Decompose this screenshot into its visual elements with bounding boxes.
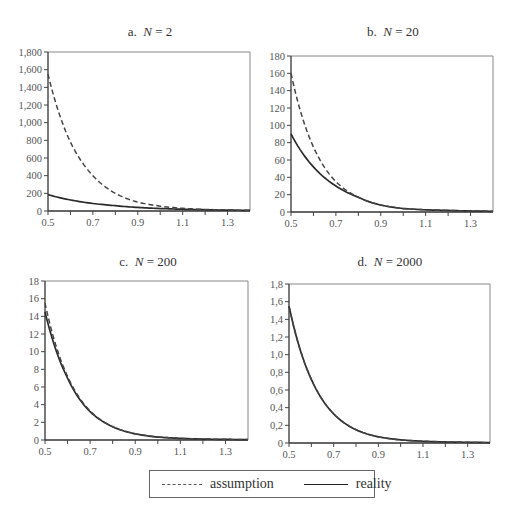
y-tick-label: 0 [37, 206, 42, 217]
x-tick-label: 1.1 [416, 449, 429, 460]
y-tick-label: 2 [34, 417, 39, 428]
y-tick-label: 0 [278, 438, 283, 449]
panel-title: d. N = 2000 [358, 254, 423, 269]
panel-title-value: = 200 [143, 254, 176, 269]
x-tick-label: 0.9 [374, 218, 387, 229]
x-tick-label: 0.5 [284, 218, 297, 229]
y-tick-label: 200 [26, 188, 42, 199]
panel-title-prefix: c. [119, 254, 135, 269]
y-tick-label: 180 [269, 51, 285, 62]
series-line-assumption [48, 74, 250, 210]
y-tick-label: 18 [29, 276, 40, 287]
y-tick-label: 600 [26, 153, 42, 164]
y-tick-label: 12 [29, 329, 40, 340]
legend: assumption reality [149, 470, 375, 498]
y-tick-label: 4 [34, 399, 40, 410]
y-tick-label: 8 [34, 364, 39, 375]
x-tick-label: 0.9 [372, 449, 385, 460]
panel-title: a. N = 2 [128, 24, 173, 39]
y-tick-label: 1,2 [270, 332, 283, 343]
x-tick-label: 0.5 [38, 446, 51, 457]
panel-title-prefix: a. [128, 24, 144, 39]
series-line-reality [289, 306, 490, 442]
y-tick-label: 60 [275, 155, 286, 166]
y-tick-label: 1,0 [270, 349, 283, 360]
panel-a: a. N = 202004006008001,0001,2001,4001,60… [18, 24, 250, 228]
y-tick-label: 80 [275, 137, 286, 148]
legend-label-assumption: assumption [210, 476, 274, 492]
y-tick-label: 10 [29, 346, 40, 357]
legend-label-reality: reality [356, 476, 392, 492]
legend-item-assumption: assumption [150, 476, 274, 492]
y-tick-label: 1,8 [270, 279, 283, 290]
y-tick-label: 0 [34, 435, 39, 446]
series-line-assumption [45, 303, 248, 439]
y-tick-label: 1,000 [18, 117, 42, 128]
x-tick-label: 1.1 [176, 217, 189, 228]
x-tick-label: 1.1 [419, 218, 432, 229]
series-line-reality [48, 195, 250, 211]
panel-c: c. N = 2000246810121416180.50.70.91.11.3 [29, 254, 249, 457]
y-tick-label: 40 [275, 172, 286, 183]
x-tick-label: 0.5 [282, 449, 295, 460]
x-tick-label: 0.9 [129, 446, 142, 457]
x-tick-label: 1.3 [219, 446, 232, 457]
y-tick-label: 140 [269, 85, 285, 96]
x-tick-label: 0.5 [41, 217, 54, 228]
panel-title-value: = 20 [392, 24, 419, 39]
y-tick-label: 0 [280, 207, 285, 218]
y-tick-label: 0,6 [270, 385, 283, 396]
legend-swatch-dashed [162, 484, 202, 485]
x-tick-label: 1.3 [464, 218, 477, 229]
y-tick-label: 120 [269, 103, 285, 114]
panel-title: c. N = 200 [119, 254, 177, 269]
y-tick-label: 100 [269, 120, 285, 131]
series-line-assumption [289, 306, 490, 442]
legend-swatch-solid [304, 484, 348, 485]
y-tick-label: 1,6 [270, 296, 283, 307]
y-tick-label: 16 [29, 293, 40, 304]
panel-d: d. N = 200000,20,40,60,81,01,21,41,61,80… [270, 254, 490, 460]
y-tick-label: 1,600 [18, 64, 42, 75]
panel-title-prefix: b. [367, 24, 383, 39]
y-tick-label: 160 [269, 68, 285, 79]
y-tick-label: 6 [34, 382, 39, 393]
figure: a. N = 202004006008001,0001,2001,4001,60… [0, 0, 510, 511]
panel-title-value: = 2 [152, 24, 172, 39]
x-tick-label: 1.1 [174, 446, 187, 457]
x-tick-label: 0.7 [329, 218, 342, 229]
panel-title-value: = 2000 [383, 254, 423, 269]
y-tick-label: 400 [26, 170, 42, 181]
y-tick-label: 1,400 [18, 82, 42, 93]
y-tick-label: 0,2 [270, 420, 283, 431]
x-tick-label: 0.7 [84, 446, 97, 457]
series-line-reality [45, 312, 248, 440]
panel-title-prefix: d. [358, 254, 374, 269]
series-line-reality [291, 134, 493, 211]
y-tick-label: 0,8 [270, 367, 283, 378]
y-tick-label: 800 [26, 135, 42, 146]
x-tick-label: 1.3 [221, 217, 234, 228]
series-line-assumption [291, 73, 493, 211]
y-tick-label: 14 [29, 311, 40, 322]
x-tick-label: 0.7 [327, 449, 340, 460]
x-tick-label: 0.7 [86, 217, 99, 228]
panel-title: b. N = 20 [367, 24, 419, 39]
y-tick-label: 1,4 [270, 314, 284, 325]
x-tick-label: 1.3 [461, 449, 474, 460]
y-tick-label: 1,200 [18, 100, 42, 111]
y-tick-label: 1,800 [18, 47, 42, 58]
x-tick-label: 0.9 [131, 217, 144, 228]
panel-b: b. N = 200204060801001201401601800.50.70… [269, 24, 493, 229]
y-tick-label: 0,4 [270, 402, 284, 413]
y-tick-label: 20 [275, 189, 286, 200]
legend-item-reality: reality [274, 476, 392, 492]
